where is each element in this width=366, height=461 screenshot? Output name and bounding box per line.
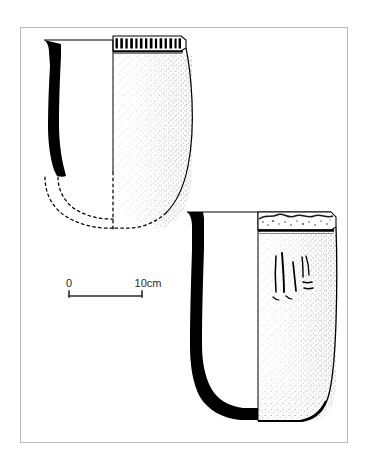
vessel-drawing-canvas: 0 10cm [0,0,366,461]
upper-vessel-profile [44,36,196,240]
lower-vessel-exterior-stipple [255,205,341,440]
scale-bar-start-label: 0 [66,277,72,289]
scale-bar: 0 10cm [66,277,162,297]
upper-vessel-rim-band [113,36,186,53]
lower-vessel-section-fill [187,212,258,420]
lower-vessel-profile [187,205,341,440]
upper-vessel-exterior-stipple [110,40,196,240]
lower-vessel-rim-band [258,212,336,234]
scale-bar-rule [69,291,142,297]
archaeological-figure-plate: 0 10cm [0,0,366,461]
scale-bar-end-label: 10cm [135,277,162,289]
upper-vessel-section-fill [44,40,66,177]
